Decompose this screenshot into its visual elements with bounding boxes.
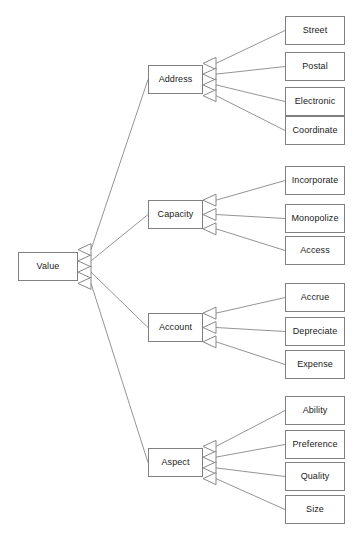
arrowhead-root-account — [78, 266, 91, 278]
edge-root-aspect — [91, 283, 148, 462]
arrowhead-aspect-quality — [203, 462, 216, 474]
arrowhead-address-postal — [203, 68, 216, 80]
arrowhead-address-electronic — [203, 79, 216, 91]
node-coordinate[interactable]: Coordinate — [285, 116, 345, 145]
node-label-depreciate: Depreciate — [291, 326, 340, 337]
node-label-electronic: Electronic — [293, 96, 338, 107]
arrowhead-account-expense — [203, 336, 216, 348]
node-accrue[interactable]: Accrue — [285, 283, 345, 312]
node-capacity[interactable]: Capacity — [148, 200, 203, 229]
edge-capacity-access — [216, 229, 285, 251]
node-value[interactable]: Value — [18, 252, 78, 281]
node-aspect[interactable]: Aspect — [148, 448, 203, 477]
edge-account-depreciate — [216, 328, 285, 332]
node-expense[interactable]: Expense — [285, 350, 345, 379]
node-label-account: Account — [157, 322, 194, 333]
arrowhead-aspect-ability — [203, 440, 216, 452]
edge-aspect-size — [216, 479, 285, 510]
node-label-aspect: Aspect — [159, 457, 191, 468]
node-access[interactable]: Access — [285, 236, 345, 265]
edge-aspect-quality — [216, 468, 285, 477]
edge-aspect-ability — [216, 411, 285, 447]
node-account[interactable]: Account — [148, 313, 203, 342]
arrowhead-capacity-monopolize — [203, 209, 216, 221]
node-label-coordinate: Coordinate — [290, 125, 339, 136]
node-depreciate[interactable]: Depreciate — [285, 317, 345, 346]
arrowhead-root-aspect — [78, 277, 91, 289]
arrowhead-account-accrue — [203, 307, 216, 319]
node-label-address: Address — [157, 74, 195, 85]
edge-root-account — [91, 272, 148, 327]
node-address[interactable]: Address — [148, 65, 203, 94]
node-incorporate[interactable]: Incorporate — [285, 166, 345, 195]
node-label-size: Size — [304, 504, 326, 515]
arrowhead-aspect-preference — [203, 451, 216, 463]
node-label-incorporate: Incorporate — [290, 175, 341, 186]
node-electronic[interactable]: Electronic — [285, 87, 345, 116]
arrowhead-capacity-access — [203, 223, 216, 235]
arrowhead-root-capacity — [78, 255, 91, 267]
node-ability[interactable]: Ability — [285, 396, 345, 425]
node-label-capacity: Capacity — [156, 209, 196, 220]
arrowhead-address-coordinate — [203, 90, 216, 102]
node-size[interactable]: Size — [285, 495, 345, 524]
node-preference[interactable]: Preference — [285, 430, 345, 459]
node-label-expense: Expense — [295, 359, 335, 370]
arrowhead-aspect-size — [203, 473, 216, 485]
arrowhead-account-depreciate — [203, 322, 216, 334]
node-postal[interactable]: Postal — [285, 52, 345, 81]
edge-capacity-monopolize — [216, 215, 285, 219]
node-label-access: Access — [298, 245, 332, 256]
edge-capacity-incorporate — [216, 181, 285, 201]
edge-address-postal — [216, 67, 285, 75]
node-monopolize[interactable]: Monopolize — [285, 204, 345, 233]
edge-account-accrue — [216, 298, 285, 314]
edge-account-expense — [216, 342, 285, 365]
edge-root-address — [91, 80, 148, 250]
arrowhead-root-address — [78, 244, 91, 256]
edge-address-coordinate — [216, 96, 285, 131]
arrowhead-address-street — [203, 57, 216, 69]
node-label-value: Value — [35, 261, 62, 272]
arrowhead-capacity-incorporate — [203, 194, 216, 206]
edge-root-capacity — [91, 215, 148, 261]
node-street[interactable]: Street — [285, 16, 345, 45]
diagram-canvas: AddressStreetPostalElectronicCoordinateC… — [0, 0, 364, 545]
node-label-monopolize: Monopolize — [289, 213, 340, 224]
node-label-street: Street — [301, 25, 330, 36]
node-label-ability: Ability — [301, 405, 330, 416]
node-label-quality: Quality — [299, 471, 332, 482]
edge-aspect-preference — [216, 445, 285, 458]
edge-address-street — [216, 31, 285, 64]
node-label-preference: Preference — [290, 439, 339, 450]
node-label-accrue: Accrue — [299, 292, 332, 303]
edge-address-electronic — [216, 85, 285, 102]
node-label-postal: Postal — [300, 61, 330, 72]
node-quality[interactable]: Quality — [285, 462, 345, 491]
